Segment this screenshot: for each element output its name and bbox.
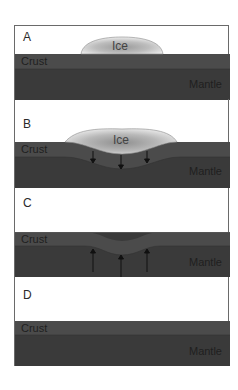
mantle-label: Mantle — [189, 165, 222, 177]
crust-label: Crust — [21, 143, 47, 155]
panel-label: A — [23, 30, 31, 44]
mantle-label: Mantle — [189, 345, 222, 357]
mantle-label: Mantle — [189, 78, 222, 90]
mantle-label: Mantle — [189, 256, 222, 268]
panel-label: D — [23, 288, 32, 302]
panel-b: B Crust Mantle Ice — [14, 99, 229, 188]
ice-label: Ice — [112, 39, 128, 53]
panel-label: C — [23, 196, 32, 210]
crust-label: Crust — [21, 55, 47, 67]
panel-c: C Crust Mantle — [14, 188, 229, 277]
ice-label: Ice — [113, 133, 129, 147]
panel-a: A Crust Mantle Ice — [14, 25, 229, 99]
panel-label: B — [23, 117, 31, 131]
crust-label: Crust — [21, 233, 47, 245]
panel-d: D Crust Mantle — [14, 277, 229, 366]
crust-label: Crust — [21, 322, 47, 334]
